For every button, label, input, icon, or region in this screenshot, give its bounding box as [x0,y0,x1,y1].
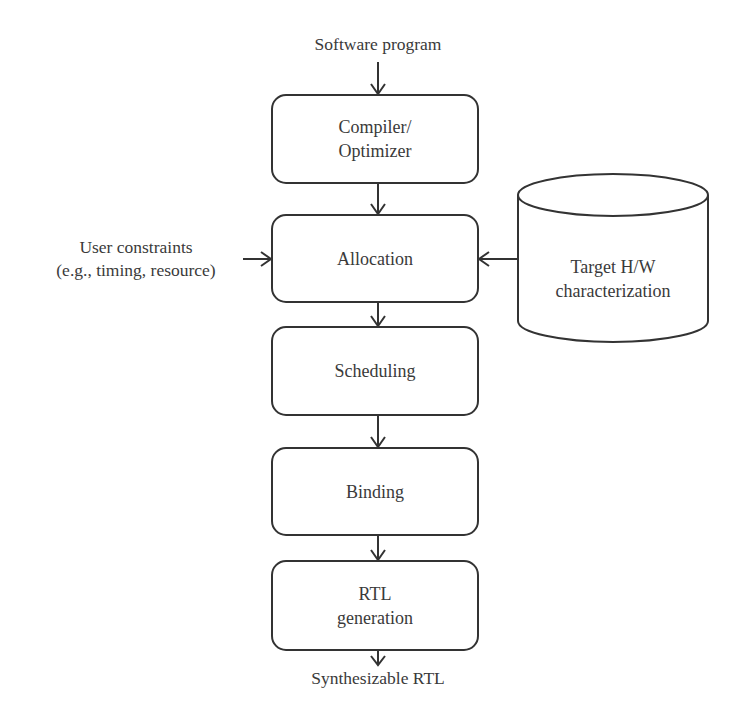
output-label: Synthesizable RTL [268,667,488,690]
arrow-allocation-to-scheduling [371,302,385,326]
user-constraints-line1: User constraints [30,236,242,259]
compiler-line1: Compiler/ [339,115,412,139]
binding-line1: Binding [346,480,404,504]
allocation-label: Allocation [272,215,478,302]
arrow-compiler-to-allocation [371,183,385,214]
rtl-line1: RTL [359,582,392,606]
database-line2: characterization [518,279,708,303]
input-label: Software program [278,33,478,56]
user-constraints-label: User constraints (e.g., timing, resource… [30,236,242,282]
rtl-line2: generation [337,606,413,630]
scheduling-label: Scheduling [272,327,478,415]
compiler-optimizer-label: Compiler/ Optimizer [272,95,478,183]
arrow-scheduling-to-binding [371,415,385,447]
binding-label: Binding [272,448,478,535]
arrow-rtl-to-output [371,650,385,665]
arrow-constraints-to-allocation [243,252,271,266]
database-line1: Target H/W [518,255,708,279]
rtl-generation-label: RTL generation [272,561,478,650]
allocation-line1: Allocation [337,247,413,271]
scheduling-line1: Scheduling [335,359,416,383]
arrow-input-to-compiler [371,62,385,94]
database-label: Target H/W characterization [518,255,708,303]
arrow-binding-to-rtl [371,535,385,560]
user-constraints-line2: (e.g., timing, resource) [30,259,242,282]
compiler-line2: Optimizer [339,139,412,163]
arrow-database-to-allocation [479,252,517,266]
